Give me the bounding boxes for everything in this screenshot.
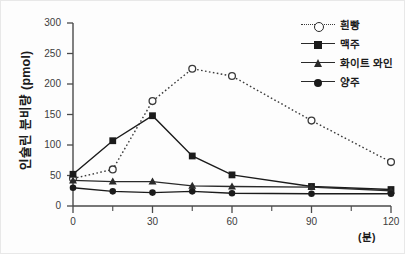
- data-point-marker: [149, 189, 156, 196]
- legend-key-swatch: [301, 19, 335, 31]
- data-point-marker: [308, 191, 315, 198]
- y-tick-label: 50: [31, 170, 61, 181]
- x-tick-label: 60: [220, 216, 244, 227]
- series-line: [73, 116, 391, 190]
- chart-legend: 흰빵맥주화이트 와인양주: [301, 15, 405, 91]
- data-point-marker: [149, 98, 156, 105]
- data-point-marker: [189, 65, 196, 72]
- legend-label: 양주: [340, 74, 360, 89]
- legend-label: 흰빵: [340, 17, 360, 32]
- data-point-marker: [388, 191, 395, 198]
- x-tick-label: 30: [141, 216, 165, 227]
- legend-marker-icon: [314, 79, 322, 87]
- legend-label: 화이트 와인: [340, 55, 393, 70]
- y-tick-label: 300: [31, 17, 61, 28]
- x-tick-label: 90: [300, 216, 324, 227]
- legend-item[interactable]: 화이트 와인: [301, 53, 405, 72]
- legend-marker-icon: [314, 59, 322, 67]
- x-axis-ticks: [73, 206, 391, 213]
- data-point-marker: [388, 159, 395, 166]
- data-point-marker: [109, 188, 116, 195]
- data-point-marker: [149, 112, 156, 119]
- y-tick-label: 150: [31, 109, 61, 120]
- data-point-marker: [308, 117, 315, 124]
- legend-item[interactable]: 양주: [301, 72, 405, 91]
- data-point-marker: [109, 137, 116, 144]
- data-point-marker: [229, 190, 236, 197]
- data-point-marker: [70, 184, 77, 191]
- data-point-marker: [229, 171, 236, 178]
- legend-marker-icon: [314, 41, 322, 49]
- legend-marker-icon: [314, 22, 324, 32]
- y-tick-label: 250: [31, 48, 61, 59]
- y-tick-label: 0: [31, 200, 61, 211]
- legend-key-swatch: [301, 76, 335, 88]
- data-point-marker: [229, 73, 236, 80]
- y-tick-label: 200: [31, 78, 61, 89]
- data-point-marker: [189, 188, 196, 195]
- chart-figure: 인슐린 분비량 (pmol) (분) 050100150200250300 03…: [0, 0, 405, 254]
- data-point-marker: [189, 153, 196, 160]
- y-tick-label: 100: [31, 139, 61, 150]
- legend-key-swatch: [301, 38, 335, 50]
- legend-label: 맥주: [340, 36, 360, 51]
- x-tick-label: 0: [61, 216, 85, 227]
- legend-item[interactable]: 맥주: [301, 34, 405, 53]
- legend-item[interactable]: 흰빵: [301, 15, 405, 34]
- legend-key-swatch: [301, 57, 335, 69]
- data-point-marker: [109, 166, 116, 173]
- x-tick-label: 120: [379, 216, 403, 227]
